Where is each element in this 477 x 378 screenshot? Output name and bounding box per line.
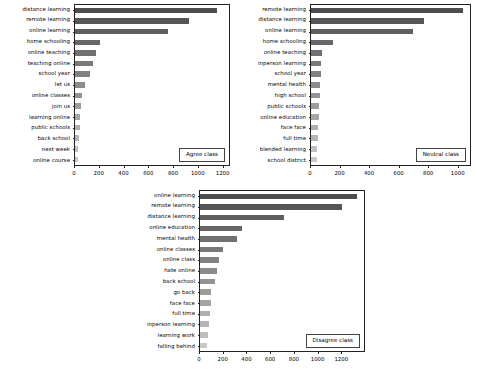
- x-tick-label: 0: [197, 356, 200, 362]
- bar-row: [75, 18, 229, 24]
- y-axis-label: go back: [173, 290, 195, 295]
- y-tick-mark: [309, 53, 311, 54]
- y-axis-label: back school: [38, 136, 70, 141]
- legend-disagree: Disagree class: [306, 334, 360, 348]
- bar-row: [75, 135, 229, 141]
- bar: [200, 289, 211, 295]
- y-tick-mark: [73, 10, 75, 11]
- bar-row: [311, 135, 470, 141]
- bar: [311, 125, 318, 131]
- y-axis-label: school year: [38, 71, 70, 76]
- bar-row: [75, 103, 229, 109]
- y-tick-mark: [198, 239, 200, 240]
- y-axis-label: remote learning: [262, 7, 306, 12]
- y-tick-mark: [73, 85, 75, 86]
- y-axis-label: online education: [260, 115, 306, 120]
- bar: [200, 236, 237, 242]
- x-tick-mark: [74, 166, 75, 168]
- x-tick-mark: [294, 352, 295, 354]
- bar-row: [200, 321, 364, 327]
- chart-panel-disagree: online learningremote learningdistance l…: [119, 190, 371, 376]
- x-tick-mark: [124, 166, 125, 168]
- y-axis-label: distance learning: [23, 7, 70, 12]
- y-axis-label: inperson learning: [147, 322, 195, 327]
- y-axis-label: blended learning: [260, 147, 306, 152]
- x-tick-label: 0: [72, 170, 75, 176]
- plot-area-agree: [74, 4, 230, 166]
- bar: [75, 82, 85, 88]
- x-tick-mark: [99, 166, 100, 168]
- bar-row: [311, 61, 470, 67]
- y-tick-mark: [198, 335, 200, 336]
- bar: [200, 332, 208, 338]
- bar-row: [200, 289, 364, 295]
- x-tick-label: 400: [241, 356, 251, 362]
- y-axis-label: full time: [172, 311, 195, 316]
- bar-row: [311, 18, 470, 24]
- bar-row: [200, 311, 364, 317]
- bar-row: [75, 114, 229, 120]
- x-tick-mark: [318, 352, 319, 354]
- bar-row: [311, 125, 470, 131]
- y-axis-labels-neutral: remote learningdistance learningonline l…: [238, 4, 310, 166]
- y-axis-label: online class: [163, 257, 195, 262]
- y-tick-mark: [309, 149, 311, 150]
- bar: [75, 114, 80, 120]
- y-tick-mark: [309, 32, 311, 33]
- x-tick-label: 800: [168, 170, 178, 176]
- y-tick-mark: [309, 138, 311, 139]
- x-tick-label: 1000: [311, 356, 325, 362]
- bar-row: [75, 29, 229, 35]
- y-axis-label: face face: [281, 125, 306, 130]
- x-tick-mark: [198, 166, 199, 168]
- y-axis-label: back school: [163, 279, 195, 284]
- x-tick-label: 1200: [334, 356, 348, 362]
- y-tick-mark: [73, 96, 75, 97]
- chart-panel-agree: distance learningremote learningonline l…: [0, 4, 236, 190]
- bar: [200, 343, 207, 349]
- x-tick-mark: [458, 166, 459, 168]
- y-tick-mark: [309, 64, 311, 65]
- bar: [75, 40, 100, 46]
- y-tick-mark: [198, 292, 200, 293]
- x-tick-label: 600: [393, 170, 403, 176]
- bar: [311, 40, 333, 46]
- x-tick-mark: [246, 352, 247, 354]
- bar: [75, 18, 189, 24]
- x-tick-mark: [341, 352, 342, 354]
- y-axis-label: learning work: [158, 333, 195, 338]
- y-axis-label: online classes: [32, 93, 70, 98]
- bar-row: [200, 279, 364, 285]
- y-tick-mark: [198, 346, 200, 347]
- y-tick-mark: [73, 106, 75, 107]
- x-tick-mark: [270, 352, 271, 354]
- x-tick-label: 1000: [451, 170, 465, 176]
- bar-charts-figure: distance learningremote learningonline l…: [0, 0, 477, 378]
- y-axis-label: join us: [52, 104, 70, 109]
- y-axis-label: remote learning: [151, 203, 195, 208]
- bar: [311, 8, 463, 14]
- x-tick-mark: [199, 352, 200, 354]
- y-tick-mark: [198, 324, 200, 325]
- y-axis-label: distance learning: [148, 214, 195, 219]
- y-axis-label: mental health: [268, 82, 306, 87]
- y-tick-mark: [309, 74, 311, 75]
- y-axis-label: remote learning: [26, 17, 70, 22]
- y-axis-label: face face: [170, 301, 195, 306]
- bar: [311, 93, 320, 99]
- bar: [75, 103, 81, 109]
- y-tick-mark: [198, 314, 200, 315]
- bar-row: [200, 236, 364, 242]
- bar: [75, 29, 168, 35]
- x-tick-mark: [399, 166, 400, 168]
- bar: [200, 194, 357, 200]
- x-tick-mark: [148, 166, 149, 168]
- bar-row: [311, 50, 470, 56]
- bar-row: [200, 300, 364, 306]
- bar: [200, 321, 209, 327]
- y-axis-label: inperson learning: [258, 61, 306, 66]
- bar: [75, 61, 93, 67]
- bar-row: [311, 93, 470, 99]
- y-axis-label: learning online: [29, 115, 70, 120]
- bar: [311, 157, 317, 163]
